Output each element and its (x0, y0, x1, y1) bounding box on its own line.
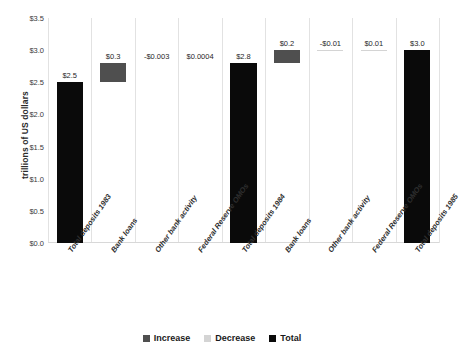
bar-value-label: $0.2 (280, 39, 295, 48)
legend-swatch-icon (143, 335, 150, 342)
bar-decrease (317, 50, 343, 52)
bar-value-label: -$0.01 (320, 39, 341, 48)
y-axis-tick-label: $3.5 (10, 14, 44, 23)
bar-value-label: $0.3 (106, 52, 121, 61)
bar-value-label: $2.5 (62, 71, 77, 80)
y-axis-tick-label: $0.5 (10, 206, 44, 215)
bar-increase (274, 50, 300, 63)
plot-area: $2.5$0.3-$0.003$0.0004$2.8$0.2-$0.01$0.0… (48, 18, 439, 243)
vertical-gridline (48, 18, 49, 243)
vertical-gridline (91, 18, 92, 243)
bar-total (404, 50, 430, 243)
bar-value-label: $2.8 (236, 52, 251, 61)
bar-decrease (361, 50, 387, 52)
chart-legend: IncreaseDecreaseTotal (0, 333, 444, 343)
y-axis-tick-label: $0.0 (10, 239, 44, 248)
y-axis-tick-label: $2.0 (10, 110, 44, 119)
legend-label: Total (280, 333, 301, 343)
legend-swatch-icon (204, 335, 211, 342)
vertical-gridline (135, 18, 136, 243)
bar-total (230, 63, 256, 243)
legend-item-decrease[interactable]: Decrease (204, 333, 255, 343)
bar-increase (100, 63, 126, 82)
legend-label: Increase (154, 333, 191, 343)
bar-value-label: $3.0 (410, 39, 425, 48)
bar-total (57, 82, 83, 243)
vertical-gridline (178, 18, 179, 243)
legend-swatch-icon (269, 335, 276, 342)
bar-value-label: -$0.003 (144, 52, 169, 61)
bar-value-label: $0.01 (364, 39, 383, 48)
legend-item-increase[interactable]: Increase (143, 333, 191, 343)
legend-item-total[interactable]: Total (269, 333, 301, 343)
bar-value-label: $0.0004 (186, 52, 213, 61)
y-axis-tick-label: $1.0 (10, 174, 44, 183)
legend-label: Decrease (215, 333, 255, 343)
y-axis-tick-label: $1.5 (10, 142, 44, 151)
y-axis-tick-label: $2.5 (10, 78, 44, 87)
y-axis-tick-label: $3.0 (10, 46, 44, 55)
vertical-gridline (309, 18, 310, 243)
vertical-gridline (265, 18, 266, 243)
